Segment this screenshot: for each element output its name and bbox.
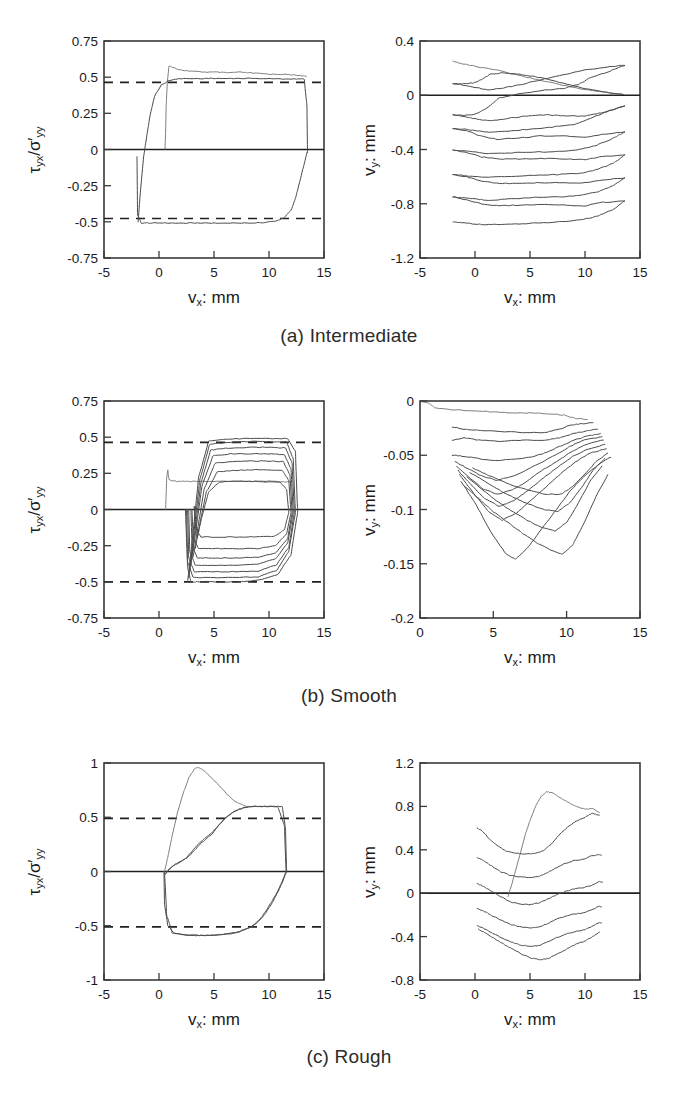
x-axis-ticks xyxy=(420,973,640,980)
x-tick-label: 15 xyxy=(316,625,331,640)
data-curve xyxy=(453,106,625,121)
x-axis-title: vx: mm xyxy=(504,288,556,308)
data-curve xyxy=(452,423,593,433)
y-tick-label: -0.4 xyxy=(391,930,415,945)
data-curve xyxy=(477,923,601,947)
y-tick-label: -0.5 xyxy=(75,575,98,590)
y-axis-ticks xyxy=(104,41,111,258)
panel-b-left: 0.75 0.5 0.25 0 -0.25 -0.5 -0.75 -5 0 5 … xyxy=(0,360,349,675)
data-curve xyxy=(477,813,599,854)
x-tick-label: 0 xyxy=(471,265,479,280)
plot-frame xyxy=(420,763,640,980)
x-tick-label: -5 xyxy=(98,265,110,280)
chart-a-right-svg: 0.4 0 -0.4 -0.8 -1.2 -5 0 5 10 15 vy: mm… xyxy=(349,0,698,315)
data-curve xyxy=(457,440,604,494)
x-tick-label: 10 xyxy=(577,987,592,1002)
y-tick-label: -0.75 xyxy=(67,251,98,266)
figure-container: 0.75 0.5 0.25 0 -0.25 -0.5 -0.75 -5 0 5 … xyxy=(0,0,698,1101)
x-tick-label: -5 xyxy=(98,987,110,1002)
chart-b-right-svg: 0 -0.05 -0.1 -0.15 -0.2 0 5 10 15 vy: mm… xyxy=(349,360,698,675)
x-axis-ticks xyxy=(104,973,324,980)
y-tick-label: -0.2 xyxy=(391,611,414,626)
y-tick-label: 0.75 xyxy=(72,34,98,49)
y-axis-title: vy: mm xyxy=(360,484,380,536)
y-tick-label: 0 xyxy=(406,88,414,103)
data-curve xyxy=(423,402,587,419)
x-tick-label: 10 xyxy=(577,265,592,280)
data-curve xyxy=(452,434,600,461)
x-tick-label: 0 xyxy=(155,987,163,1002)
x-tick-label: 10 xyxy=(261,987,276,1002)
y-tick-label: -0.1 xyxy=(391,503,414,518)
chart-c-right-svg: 1.2 0.8 0.4 0 -0.4 -0.8 -5 0 5 10 15 vy:… xyxy=(349,722,698,1037)
data-curve xyxy=(478,929,599,960)
caption-a: (a) Intermediate xyxy=(0,325,698,347)
svg-text:vy: mm: vy: mm xyxy=(360,846,380,898)
panel-a-left: 0.75 0.5 0.25 0 -0.25 -0.5 -0.75 -5 0 5 … xyxy=(0,0,349,315)
data-curve xyxy=(166,806,286,874)
y-tick-label: 1 xyxy=(90,756,98,771)
x-tick-label: 5 xyxy=(210,625,218,640)
y-tick-label: 0.75 xyxy=(72,394,98,409)
x-tick-label: 0 xyxy=(155,265,163,280)
caption-c: (c) Rough xyxy=(0,1046,698,1068)
data-curve xyxy=(477,854,601,877)
data-curve xyxy=(477,906,601,928)
y-axis-title: vy: mm xyxy=(360,846,380,898)
y-tick-label: -0.05 xyxy=(383,448,414,463)
y-tick-label: 0 xyxy=(90,143,98,158)
panel-a-right: 0.4 0 -0.4 -0.8 -1.2 -5 0 5 10 15 vy: mm… xyxy=(349,0,698,315)
x-axis-title: vx: mm xyxy=(504,1010,556,1030)
y-axis-ticks xyxy=(420,401,427,618)
y-tick-label: 0.8 xyxy=(395,799,414,814)
y-axis-ticks xyxy=(104,401,111,618)
y-tick-label: 0.25 xyxy=(72,106,98,121)
y-tick-label: -0.5 xyxy=(75,919,98,934)
panel-c-right: 1.2 0.8 0.4 0 -0.4 -0.8 -5 0 5 10 15 vy:… xyxy=(349,722,698,1037)
data-curve xyxy=(137,153,307,224)
svg-text:τyx/σ′yy: τyx/σ′yy xyxy=(25,486,45,534)
x-axis-title: vx: mm xyxy=(188,1010,240,1030)
x-axis-ticks xyxy=(104,251,324,258)
x-axis-title: vx: mm xyxy=(504,648,556,668)
y-tick-label: 0 xyxy=(90,865,98,880)
x-tick-label: 15 xyxy=(316,265,331,280)
x-tick-label: 5 xyxy=(526,265,534,280)
panel-c-left: 1 0.5 0 -0.5 -1 -5 0 5 10 15 τyx/σ′yy vx… xyxy=(0,722,349,1037)
y-tick-label: -0.5 xyxy=(75,215,98,230)
data-curve xyxy=(508,792,599,897)
x-tick-label: 5 xyxy=(210,265,218,280)
x-tick-label: 10 xyxy=(559,625,574,640)
x-tick-label: 5 xyxy=(490,625,498,640)
x-tick-label: 0 xyxy=(155,625,163,640)
y-axis-ticks xyxy=(104,763,111,980)
svg-text:vy: mm: vy: mm xyxy=(360,124,380,176)
y-axis-title: τyx/σ′yy xyxy=(25,848,45,896)
y-tick-label: -0.8 xyxy=(391,973,414,988)
panel-b-right: 0 -0.05 -0.1 -0.15 -0.2 0 5 10 15 vy: mm… xyxy=(349,360,698,675)
x-tick-label: -5 xyxy=(414,265,426,280)
y-tick-label: 0.4 xyxy=(395,843,414,858)
x-axis-ticks xyxy=(420,251,640,258)
x-tick-label: 0 xyxy=(416,625,424,640)
data-curve xyxy=(165,768,248,872)
caption-b: (b) Smooth xyxy=(0,685,698,707)
y-axis-title: τyx/σ′yy xyxy=(25,486,45,534)
y-tick-label: -0.25 xyxy=(67,179,98,194)
x-tick-label: 15 xyxy=(632,625,647,640)
data-curves xyxy=(423,402,611,559)
x-tick-label: 0 xyxy=(471,987,479,1002)
chart-a-left-svg: 0.75 0.5 0.25 0 -0.25 -0.5 -0.75 -5 0 5 … xyxy=(0,0,349,315)
y-tick-label: -1.2 xyxy=(391,251,414,266)
x-axis-title: vx: mm xyxy=(188,288,240,308)
data-curves xyxy=(137,66,308,224)
data-curve xyxy=(453,178,625,201)
data-curves xyxy=(164,768,287,936)
x-tick-label: 5 xyxy=(526,987,534,1002)
data-curve xyxy=(453,175,625,184)
y-axis-title: τyx/σ′yy xyxy=(25,126,45,174)
y-axis-ticks xyxy=(420,763,427,980)
x-tick-label: 10 xyxy=(261,625,276,640)
svg-text:τyx/σ′yy: τyx/σ′yy xyxy=(25,848,45,896)
y-tick-label: 0.4 xyxy=(395,34,414,49)
